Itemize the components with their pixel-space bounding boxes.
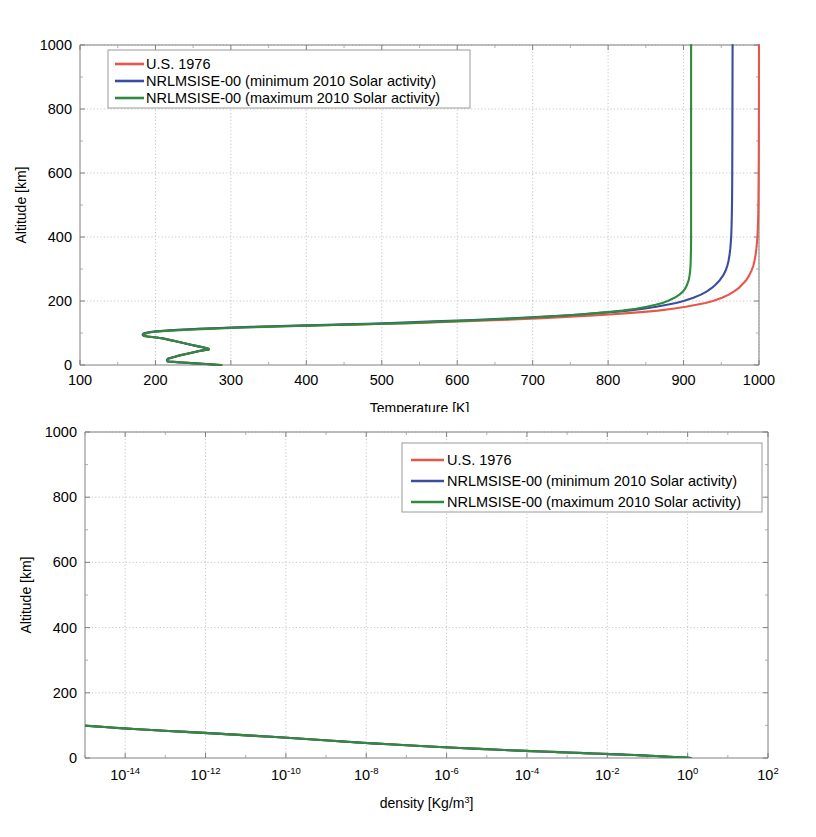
x-tick-label: 900 — [671, 372, 695, 388]
legend-temperature: U.S. 1976NRLMSISE-00 (minimum 2010 Solar… — [108, 50, 470, 108]
x-tick-label: 700 — [521, 372, 545, 388]
y-tick-label: 800 — [53, 489, 77, 505]
y-tick-label: 0 — [64, 357, 72, 373]
legend-density: U.S. 1976NRLMSISE-00 (minimum 2010 Solar… — [402, 443, 762, 512]
legend-label: NRLMSISE-00 (minimum 2010 Solar activity… — [447, 473, 737, 489]
x-tick-label: 10-8 — [354, 765, 379, 783]
x-tick-label: 100 — [677, 765, 698, 783]
x-tick-label: 10-12 — [191, 765, 221, 783]
y-tick-label: 600 — [53, 554, 77, 570]
atmospheric-model-figure: 1002003004005006007008009001000020040060… — [0, 0, 816, 837]
legend-label: NRLMSISE-00 (maximum 2010 Solar activity… — [146, 90, 440, 106]
x-tick-label: 200 — [143, 372, 167, 388]
x-tick-label: 1000 — [743, 372, 775, 388]
x-tick-label: 100 — [68, 372, 92, 388]
x-tick-label: 102 — [757, 765, 778, 783]
legend-label: U.S. 1976 — [146, 56, 211, 72]
x-axis-title: density [Kg/m3] — [380, 795, 474, 811]
y-tick-label: 200 — [48, 293, 72, 309]
x-tick-label: 10-14 — [110, 765, 140, 783]
y-axis-title: Altitude [km] — [13, 166, 29, 243]
legend-label: NRLMSISE-00 (minimum 2010 Solar activity… — [146, 73, 436, 89]
x-tick-label: 600 — [445, 372, 469, 388]
x-tick-label: 10-6 — [434, 765, 459, 783]
x-tick-label: 400 — [294, 372, 318, 388]
y-axis-title: Altitude [km] — [18, 556, 34, 633]
legend-label: U.S. 1976 — [447, 452, 512, 468]
density-profile-panel: 10-1410-1210-1010-810-610-410-2100102020… — [0, 412, 816, 837]
y-tick-label: 1000 — [40, 37, 72, 53]
density-plot-svg: 10-1410-1210-1010-810-610-410-2100102020… — [0, 412, 816, 837]
x-tick-label: 500 — [370, 372, 394, 388]
x-tick-label: 10-4 — [515, 765, 540, 783]
x-tick-label: 10-10 — [271, 765, 301, 783]
temperature-plot-svg: 1002003004005006007008009001000020040060… — [0, 0, 816, 412]
temperature-plot-area: 1002003004005006007008009001000020040060… — [13, 37, 775, 412]
x-axis-title: Temperature [K] — [370, 400, 470, 412]
y-tick-label: 0 — [69, 750, 77, 766]
y-tick-label: 1000 — [45, 424, 77, 440]
y-tick-label: 800 — [48, 101, 72, 117]
y-tick-label: 200 — [53, 685, 77, 701]
y-tick-label: 400 — [48, 229, 72, 245]
density-plot-area: 10-1410-1210-1010-810-610-410-2100102020… — [0, 424, 779, 811]
x-tick-label: 800 — [596, 372, 620, 388]
legend-label: NRLMSISE-00 (maximum 2010 Solar activity… — [447, 494, 741, 510]
x-tick-label: 10-2 — [595, 765, 620, 783]
y-tick-label: 400 — [53, 620, 77, 636]
x-tick-label: 300 — [219, 372, 243, 388]
y-tick-label: 600 — [48, 165, 72, 181]
temperature-profile-panel: 1002003004005006007008009001000020040060… — [0, 0, 816, 412]
